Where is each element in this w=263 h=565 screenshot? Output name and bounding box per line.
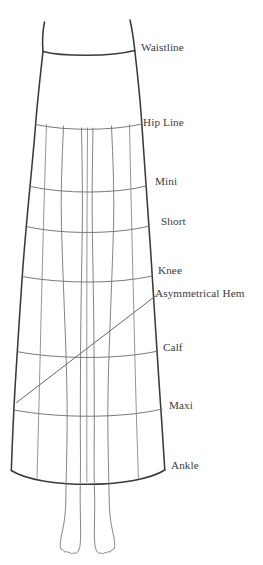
panel-seam-left-outer <box>37 125 47 479</box>
right-leg-inner-contour <box>92 128 94 488</box>
left-torso-edge <box>43 22 45 52</box>
right-torso-edge <box>130 20 135 51</box>
left-skirt-edge <box>11 52 43 471</box>
level-guides-group <box>14 124 162 416</box>
hip-line-guide <box>36 124 142 129</box>
skirt-panel-lines-group <box>37 125 138 483</box>
label-waistline: Waistline <box>141 41 184 53</box>
calf-line-guide <box>18 351 158 357</box>
waistline-curve <box>43 51 135 56</box>
panel-seam-center <box>87 128 88 482</box>
label-hip-line: Hip Line <box>143 116 184 128</box>
label-ankle: Ankle <box>171 459 199 471</box>
figure-outline-group <box>11 20 165 484</box>
label-maxi: Maxi <box>169 399 193 411</box>
label-short: Short <box>161 215 186 227</box>
mini-line-guide <box>31 186 147 192</box>
panel-seam-right-outer <box>130 125 139 479</box>
maxi-line-guide <box>14 409 162 416</box>
label-asymmetrical-hem: Asymmetrical Hem <box>155 287 245 299</box>
label-mini: Mini <box>155 175 177 187</box>
right-leg-outer-contour <box>94 126 114 554</box>
short-line-guide <box>28 226 150 232</box>
label-knee: Knee <box>158 264 182 276</box>
right-skirt-edge <box>135 51 165 471</box>
skirt-hem-edge <box>11 470 165 484</box>
skirt-figure-svg <box>0 0 263 565</box>
left-leg-inner-contour <box>80 128 82 488</box>
left-leg-outer-contour <box>60 126 80 554</box>
label-calf: Calf <box>163 341 183 353</box>
skirt-length-diagram: Waistline Hip Line Mini Short Knee Asymm… <box>0 0 263 565</box>
